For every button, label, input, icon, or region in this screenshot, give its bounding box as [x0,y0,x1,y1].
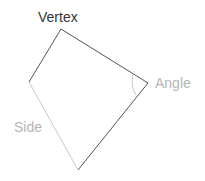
angle-label: Angle [155,75,191,91]
edge-left-top [29,29,61,82]
angle-arc [132,75,136,95]
edge-top-right [61,29,148,83]
edge-right-bottom [78,83,148,170]
side-label: Side [14,119,42,135]
vertex-label: Vertex [38,9,78,25]
